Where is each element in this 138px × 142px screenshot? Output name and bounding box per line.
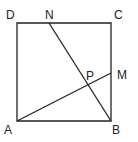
segment-bn: [49, 23, 111, 121]
label-d: D: [6, 8, 15, 22]
label-a: A: [4, 123, 12, 137]
square-diagram: D N C M P A B: [0, 0, 138, 142]
label-n: N: [45, 8, 54, 22]
label-p: P: [86, 69, 94, 83]
label-b: B: [112, 123, 120, 137]
label-c: C: [114, 8, 123, 22]
label-m: M: [117, 68, 127, 82]
segment-am: [17, 73, 111, 121]
square-abcd: [17, 23, 111, 121]
